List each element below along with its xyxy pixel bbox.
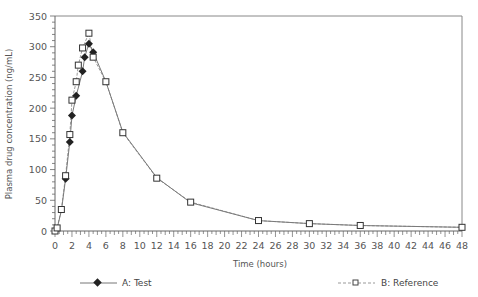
y-tick-label: 350 <box>29 11 47 22</box>
x-tick-label: 30 <box>303 240 315 251</box>
reference-marker <box>90 54 96 60</box>
x-tick-label: 42 <box>405 240 417 251</box>
test-marker <box>66 138 74 146</box>
pk-chart: 050100150200250300350 024681012141618202… <box>0 0 478 297</box>
y-tick-label: 0 <box>41 226 47 237</box>
reference-marker <box>188 199 194 205</box>
x-tick-label: 4 <box>86 240 92 251</box>
y-tick-label: 150 <box>29 133 47 144</box>
legend: A: Test B: Reference <box>80 278 439 288</box>
x-tick-label: 0 <box>52 240 58 251</box>
legend-label-test: A: Test <box>122 278 152 288</box>
square-marker-icon <box>353 280 358 285</box>
x-tick-label: 14 <box>168 240 180 251</box>
reference-marker <box>54 225 60 231</box>
x-tick-label: 18 <box>202 240 214 251</box>
y-tick-label: 250 <box>29 72 47 83</box>
x-tick-label: 40 <box>388 240 400 251</box>
x-tick-label: 2 <box>69 240 75 251</box>
reference-marker <box>75 62 81 68</box>
y-tick-label: 300 <box>29 41 47 52</box>
y-axis-title: Plasma drug concentration (ng/mL) <box>4 49 14 200</box>
y-axis: 050100150200250300350 <box>29 11 55 237</box>
reference-marker <box>357 222 363 228</box>
x-tick-label: 34 <box>337 240 349 251</box>
x-tick-label: 46 <box>439 240 451 251</box>
y-tick-label: 100 <box>29 164 47 175</box>
reference-marker <box>459 224 465 230</box>
diamond-marker-icon <box>93 278 101 286</box>
reference-marker <box>86 30 92 36</box>
test-marker <box>81 53 89 61</box>
x-tick-label: 28 <box>286 240 298 251</box>
x-tick-label: 12 <box>151 240 163 251</box>
reference-marker <box>58 207 64 213</box>
chart-canvas: 050100150200250300350 024681012141618202… <box>0 0 478 297</box>
y-tick-label: 50 <box>35 195 47 206</box>
reference-marker <box>306 221 312 227</box>
x-tick-label: 22 <box>235 240 247 251</box>
reference-marker <box>73 79 79 85</box>
x-tick-label: 24 <box>252 240 264 251</box>
x-tick-label: 6 <box>103 240 109 251</box>
x-tick-label: 48 <box>456 240 468 251</box>
x-tick-label: 8 <box>120 240 126 251</box>
x-tick-label: 16 <box>185 240 197 251</box>
x-tick-label: 44 <box>422 240 434 251</box>
x-axis: 0246810121416182022242628303234363840424… <box>52 231 468 251</box>
reference-marker <box>80 45 86 51</box>
x-tick-label: 20 <box>219 240 231 251</box>
series-line <box>55 33 462 231</box>
reference-marker <box>67 132 73 138</box>
reference-marker <box>103 79 109 85</box>
reference-marker <box>63 173 69 179</box>
x-tick-label: 38 <box>371 240 383 251</box>
series-line <box>55 44 462 231</box>
plot-series <box>52 30 465 234</box>
x-tick-label: 36 <box>354 240 366 251</box>
reference-marker <box>154 175 160 181</box>
y-tick-label: 200 <box>29 103 47 114</box>
reference-marker <box>256 218 262 224</box>
test-marker <box>68 112 76 120</box>
x-tick-label: 26 <box>269 240 281 251</box>
x-axis-title: Time (hours) <box>232 259 287 269</box>
x-tick-label: 10 <box>134 240 146 251</box>
plot-frame <box>55 16 462 231</box>
x-tick-label: 32 <box>320 240 332 251</box>
legend-item-reference: B: Reference <box>338 278 439 288</box>
reference-marker <box>69 97 75 103</box>
legend-item-test: A: Test <box>80 278 152 288</box>
reference-marker <box>120 130 126 136</box>
legend-label-reference: B: Reference <box>381 278 439 288</box>
